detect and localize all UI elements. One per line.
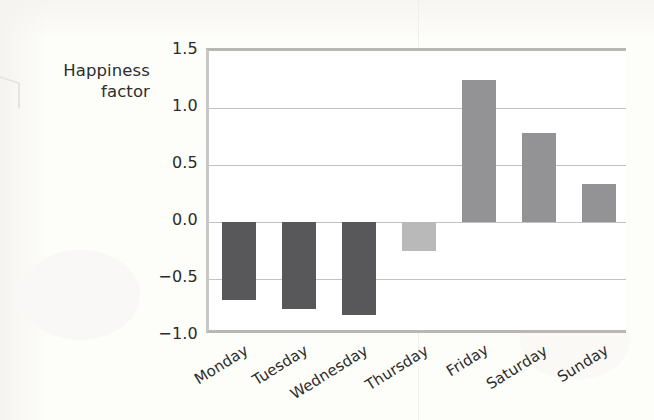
plot-area (206, 48, 626, 333)
y-tick-label: 1.0 (140, 96, 198, 115)
bar (282, 222, 316, 309)
x-tick-label: Thursday (362, 341, 432, 394)
y-tick-label: 1.5 (140, 39, 198, 58)
bar-chart-figure: Happiness factor 1.5 1.0 0.5 0.0 −0.5 −1… (0, 0, 654, 420)
x-tick-label: Sunday (554, 341, 612, 386)
bar (462, 80, 496, 223)
bar (402, 222, 436, 251)
bar (222, 222, 256, 300)
y-axis-title-line-1: Happiness (12, 60, 150, 81)
y-axis-title-line-2: factor (12, 81, 150, 102)
bar (342, 222, 376, 315)
gridline (209, 279, 626, 280)
x-axis-tick-labels: MondayTuesdayWednesdayThursdayFridaySatu… (206, 333, 626, 420)
x-tick-label: Friday (443, 341, 492, 381)
y-tick-label: −0.5 (140, 267, 198, 286)
y-tick-label: −1.0 (140, 324, 198, 343)
y-tick-label: 0.0 (140, 210, 198, 229)
gridline (209, 108, 626, 109)
bar (522, 133, 556, 222)
y-axis-title: Happiness factor (12, 60, 150, 102)
x-tick-label: Monday (191, 341, 252, 388)
x-tick-label: Saturday (483, 341, 551, 393)
gridline (209, 165, 626, 166)
bar (582, 184, 616, 222)
y-axis-tick-labels: 1.5 1.0 0.5 0.0 −0.5 −1.0 (134, 48, 198, 333)
y-tick-label: 0.5 (140, 153, 198, 172)
